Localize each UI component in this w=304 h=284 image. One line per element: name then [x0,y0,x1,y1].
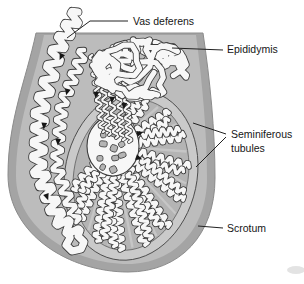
shadow-smudge [287,266,304,274]
label-vas-deferens: Vas deferens [133,15,194,27]
label-seminiferous-tubules-line2: tubules [231,142,265,154]
label-scrotum: Scrotum [227,222,266,234]
testis-scrotum-diagram: Vas deferens Epididymis Seminiferous tub… [0,0,304,284]
label-seminiferous-tubules-line1: Seminiferous [231,128,292,140]
label-epididymis: Epididymis [227,43,278,55]
diagram-canvas: Vas deferens Epididymis Seminiferous tub… [0,0,304,284]
